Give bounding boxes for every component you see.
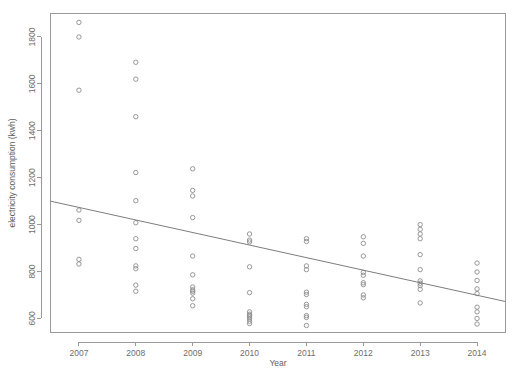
data-point — [418, 236, 422, 240]
data-point — [475, 287, 479, 291]
data-point — [134, 289, 138, 293]
data-point — [475, 322, 479, 326]
data-point — [134, 170, 138, 174]
plot-frame — [51, 14, 506, 333]
x-axis-title: Year — [269, 358, 286, 368]
x-tick-label: 2014 — [468, 348, 487, 358]
axes-layer — [37, 14, 506, 347]
data-point — [190, 304, 194, 308]
data-point — [190, 254, 194, 258]
y-tick-label: 1600 — [27, 74, 37, 93]
data-points-layer — [77, 20, 480, 327]
x-tick-label: 2013 — [411, 348, 430, 358]
data-point — [475, 278, 479, 282]
data-point — [247, 265, 251, 269]
y-tick-label: 1200 — [27, 168, 37, 187]
data-point — [190, 215, 194, 219]
data-point — [247, 290, 251, 294]
x-tick-label: 2012 — [354, 348, 373, 358]
data-point — [475, 310, 479, 314]
data-point — [418, 227, 422, 231]
chart-canvas: 2007200820092010201120122013201460080010… — [0, 0, 517, 384]
data-point — [361, 273, 365, 277]
data-point — [134, 77, 138, 81]
data-point — [475, 270, 479, 274]
data-point — [134, 198, 138, 202]
data-point — [361, 235, 365, 239]
data-point — [134, 283, 138, 287]
data-point — [190, 167, 194, 171]
y-axis-title: electricity consumption (kwh) — [7, 118, 17, 227]
data-point — [134, 115, 138, 119]
data-point — [418, 252, 422, 256]
data-point — [77, 20, 81, 24]
scatter-plot-figure: 2007200820092010201120122013201460080010… — [0, 0, 517, 384]
data-point — [77, 257, 81, 261]
data-point — [418, 267, 422, 271]
trend-line-layer — [51, 201, 506, 301]
data-point — [475, 305, 479, 309]
x-tick-label: 2008 — [126, 348, 145, 358]
y-tick-label: 800 — [27, 264, 37, 278]
axis-labels-layer: 2007200820092010201120122013201460080010… — [7, 27, 487, 367]
y-tick-label: 1000 — [27, 215, 37, 234]
data-point — [134, 267, 138, 271]
data-point — [361, 254, 365, 258]
data-point — [77, 35, 81, 39]
data-point — [418, 301, 422, 305]
data-point — [190, 297, 194, 301]
data-point — [247, 232, 251, 236]
data-point — [361, 296, 365, 300]
data-point — [134, 60, 138, 64]
data-point — [361, 241, 365, 245]
data-point — [304, 239, 308, 243]
data-point — [304, 323, 308, 327]
data-point — [77, 218, 81, 222]
data-point — [77, 88, 81, 92]
x-tick-label: 2007 — [69, 348, 88, 358]
data-point — [475, 316, 479, 320]
data-point — [77, 262, 81, 266]
data-point — [475, 261, 479, 265]
regression-line — [51, 201, 506, 301]
data-point — [190, 188, 194, 192]
data-point — [418, 232, 422, 236]
y-tick-label: 600 — [27, 311, 37, 325]
x-tick-label: 2011 — [297, 348, 316, 358]
data-point — [418, 222, 422, 226]
data-point — [190, 273, 194, 277]
y-tick-label: 1800 — [27, 27, 37, 46]
data-point — [134, 236, 138, 240]
data-point — [190, 194, 194, 198]
x-tick-label: 2009 — [183, 348, 202, 358]
data-point — [77, 208, 81, 212]
data-point — [134, 221, 138, 225]
y-tick-label: 1400 — [27, 121, 37, 140]
x-tick-label: 2010 — [240, 348, 259, 358]
data-point — [134, 246, 138, 250]
